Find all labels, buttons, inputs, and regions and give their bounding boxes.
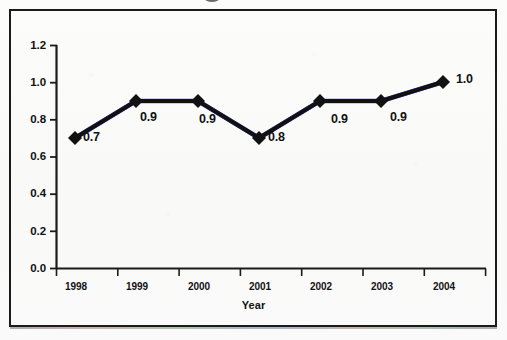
x-axis-title: Year	[0, 299, 507, 311]
data-point-label: 0.9	[331, 112, 348, 126]
data-point-label: 1.0	[456, 72, 473, 86]
x-tick-marks	[57, 269, 486, 277]
series-line	[75, 82, 443, 138]
x-tick-label: 2003	[366, 281, 398, 292]
x-tick-label: 2000	[183, 281, 215, 292]
x-tick-label: 2001	[244, 281, 276, 292]
data-point-marker	[374, 94, 388, 108]
y-tick-label: 0.0	[16, 262, 46, 274]
y-tick-label: 0.2	[16, 225, 46, 237]
y-tick-label: 1.0	[16, 76, 46, 88]
y-tick-label: 0.4	[16, 187, 46, 199]
x-tick-label: 1998	[60, 281, 92, 292]
y-tick-label: 1.2	[16, 39, 46, 51]
y-tick-label: 0.6	[16, 150, 46, 162]
x-tick-label: 2004	[428, 281, 460, 292]
data-point-label: 0.9	[199, 112, 216, 126]
x-tick-label: 1999	[121, 281, 153, 292]
data-point-label: 0.7	[83, 130, 100, 144]
data-point-label: 0.9	[140, 110, 157, 124]
data-point-marker	[436, 75, 450, 89]
data-point-label: 0.8	[268, 130, 285, 144]
chart-page: 1.2 1.0 0.8 0.6 0.4 0.2 0.0 1998 1999 20…	[0, 0, 507, 340]
y-tick-label: 0.8	[16, 113, 46, 125]
data-point-label: 0.9	[390, 110, 407, 124]
x-tick-label: 2002	[305, 281, 337, 292]
series-line-blue-artifact	[75, 82, 443, 138]
